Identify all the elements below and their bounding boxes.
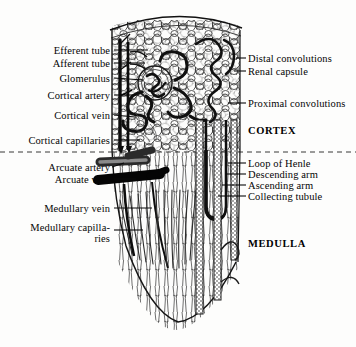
label-collecting-tubule: Collecting tubule [248, 191, 322, 202]
nephron-diagram-figure: Efferent tubeAfferent tubeGlomerulusCort… [0, 0, 356, 347]
label-medullary-vein: Medullary vein [10, 203, 110, 214]
label-arcuate-artery: Arcuate artery [10, 162, 110, 173]
label-descending-arm: Descending arm [248, 169, 318, 180]
label-glomerulus: Glomerulus [14, 73, 110, 84]
label-ascending-arm: Ascending arm [248, 180, 313, 191]
region-label-medulla: MEDULLA [248, 238, 306, 249]
collecting-tubules [196, 120, 239, 314]
label-proximal-convolutions: Proximal convolutions [248, 98, 345, 109]
region-label-cortex: CORTEX [248, 125, 296, 136]
label-loop-of-henle: Loop of Henle [248, 158, 311, 169]
label-cortical-vein: Cortical vein [10, 110, 110, 121]
label-arcuate-vein: Arcuate vein [10, 174, 110, 185]
label-efferent-tube: Efferent tube [14, 45, 110, 56]
label-afferent-tube: Afferent tube [14, 58, 110, 69]
label-distal-convolutions: Distal convolutions [248, 53, 332, 64]
label-cortical-artery: Cortical artery [10, 90, 110, 101]
label-medullary-capillaries: Medullary capilla- ries [2, 222, 110, 244]
label-renal-capsule: Renal capsule [248, 66, 308, 77]
label-cortical-capillaries: Cortical capillaries [2, 135, 110, 146]
